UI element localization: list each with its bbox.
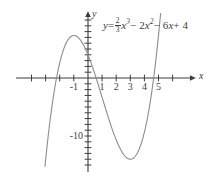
equation-equals: = xyxy=(108,19,114,31)
x-tick-label-5: 5 xyxy=(151,81,167,92)
x-tick-label-neg1: -1 xyxy=(66,81,82,92)
term2-coefficient: − 2 xyxy=(130,19,145,31)
graph-figure: y=23x3− 2x2− 6x+ 4 -1 1 2 3 4 5 -10 x y xyxy=(0,0,219,178)
equation-annotation: y=23x3− 2x2− 6x+ 4 xyxy=(103,17,188,33)
fraction-denominator: 3 xyxy=(115,25,121,34)
y-axis-label: y xyxy=(92,8,96,19)
fraction-numerator: 2 xyxy=(115,17,121,25)
term3-coefficient: − 6 xyxy=(154,19,169,31)
term4-constant: + 4 xyxy=(173,19,188,31)
y-tick-label-neg10: -10 xyxy=(61,130,83,141)
fraction-two-thirds: 23 xyxy=(115,17,121,33)
x-axis-label: x xyxy=(199,70,203,81)
